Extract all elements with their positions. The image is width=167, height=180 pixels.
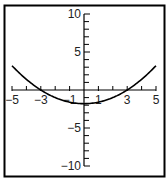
x-tick-label: 1 <box>95 93 102 107</box>
y-tick-label: −10 <box>61 159 82 173</box>
y-tick-label: 10 <box>68 7 82 21</box>
y-tick-label: 5 <box>74 45 81 59</box>
x-tick-label: −3 <box>34 93 48 107</box>
x-tick-label: 5 <box>153 93 160 107</box>
x-tick-label: −1 <box>63 93 77 107</box>
x-tick-label: −5 <box>5 93 19 107</box>
parabola-graph: −5−3−1135105−5−10 <box>0 0 167 180</box>
y-tick-label: −5 <box>67 121 81 135</box>
x-tick-label: 3 <box>124 93 131 107</box>
